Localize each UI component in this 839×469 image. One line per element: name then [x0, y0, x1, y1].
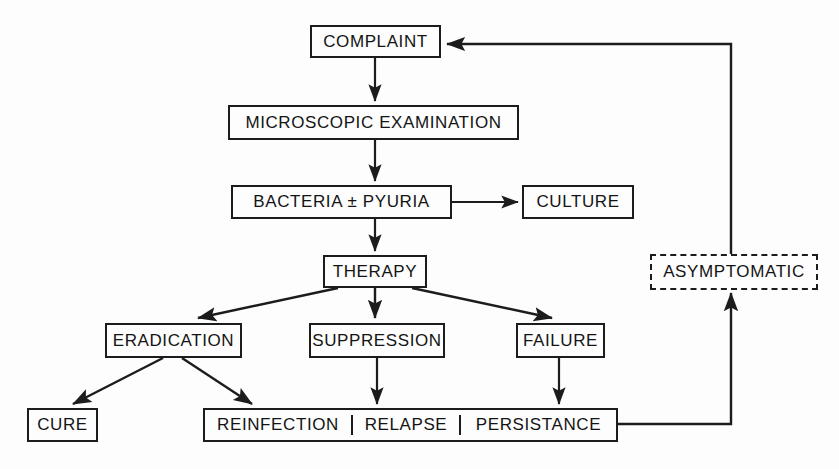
node-eradication[interactable]: ERADICATION [105, 323, 242, 358]
flowchart-canvas: COMPLAINT MICROSCOPIC EXAMINATION BACTER… [0, 0, 839, 469]
node-asymptomatic[interactable]: ASYMPTOMATIC [650, 254, 818, 290]
edge-therapy-to-eradication [198, 288, 338, 318]
node-persistance-label: PERSISTANCE [476, 415, 601, 435]
edge-persistance-to-asymptomatic [618, 293, 731, 424]
node-relapse-label: RELAPSE [365, 415, 448, 435]
node-culture[interactable]: CULTURE [522, 185, 634, 219]
edge-eradication-to-reinfection [182, 358, 252, 404]
node-outcome-group: REINFECTION RELAPSE PERSISTANCE [203, 408, 618, 442]
node-bacteria-pyuria[interactable]: BACTERIA ± PYURIA [231, 185, 452, 219]
node-relapse[interactable]: RELAPSE [351, 415, 459, 435]
edge-therapy-to-failure [412, 288, 552, 318]
node-therapy[interactable]: THERAPY [323, 255, 427, 288]
node-therapy-label: THERAPY [333, 262, 418, 282]
node-bacteria-pyuria-label: BACTERIA ± PYURIA [253, 192, 429, 212]
node-suppression[interactable]: SUPPRESSION [309, 323, 445, 358]
node-cure-label: CURE [37, 415, 88, 435]
node-failure[interactable]: FAILURE [516, 323, 605, 358]
node-reinfection[interactable]: REINFECTION [205, 415, 351, 435]
node-persistance[interactable]: PERSISTANCE [459, 415, 616, 435]
edge-asymptomatic-to-complaint [447, 44, 731, 254]
node-culture-label: CULTURE [536, 192, 619, 212]
node-suppression-label: SUPPRESSION [312, 331, 441, 351]
node-failure-label: FAILURE [523, 331, 598, 351]
node-cure[interactable]: CURE [27, 408, 98, 442]
node-microscopic-examination[interactable]: MICROSCOPIC EXAMINATION [228, 105, 519, 140]
node-asymptomatic-label: ASYMPTOMATIC [663, 262, 805, 282]
flowchart-edges [0, 0, 839, 469]
node-reinfection-label: REINFECTION [217, 415, 339, 435]
node-complaint[interactable]: COMPLAINT [310, 25, 441, 58]
edge-eradication-to-cure [73, 358, 163, 404]
node-complaint-label: COMPLAINT [323, 32, 428, 52]
node-microscopic-examination-label: MICROSCOPIC EXAMINATION [245, 113, 501, 133]
node-eradication-label: ERADICATION [113, 331, 235, 351]
